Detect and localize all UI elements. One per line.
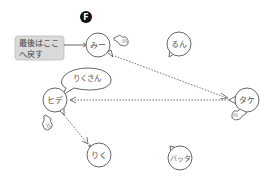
node-batta-label: バッタ: [170, 154, 191, 163]
node-hide-label: ヒデ: [47, 95, 63, 105]
pointing-hand-icon: [232, 109, 246, 120]
pointing-hand-icon: [39, 114, 56, 132]
step-badge: F: [80, 11, 92, 23]
step-badge-label: F: [83, 13, 88, 22]
node-riku[interactable]: りく: [87, 143, 111, 167]
speech-bubble: りくさん: [61, 68, 111, 96]
edge-hide-to-riku: [64, 115, 87, 143]
node-batta[interactable]: バッタ: [168, 146, 192, 170]
node-riku-label: りく: [91, 151, 107, 160]
node-run-label: るん: [171, 40, 187, 49]
node-mi-label: みー: [90, 41, 106, 50]
arrowhead-take: [220, 93, 228, 99]
callout: 最後はここ へ戻す: [15, 36, 87, 60]
callout-line-2: へ戻す: [19, 49, 43, 59]
diagram-canvas: 最後はここ へ戻す F みー るん りくさん ヒデ: [0, 0, 261, 185]
speech-bubble-text: りくさん: [73, 74, 102, 83]
node-mi[interactable]: みー: [86, 33, 113, 57]
node-hide[interactable]: ヒデ: [43, 88, 67, 115]
node-run[interactable]: るん: [167, 32, 191, 57]
node-take-label: タケ: [239, 96, 255, 105]
pointing-hand-icon: [114, 35, 128, 46]
callout-line-1: 最後はここ: [19, 38, 59, 48]
edge-mi-to-take: [115, 56, 227, 98]
node-take[interactable]: タケ: [229, 88, 259, 112]
